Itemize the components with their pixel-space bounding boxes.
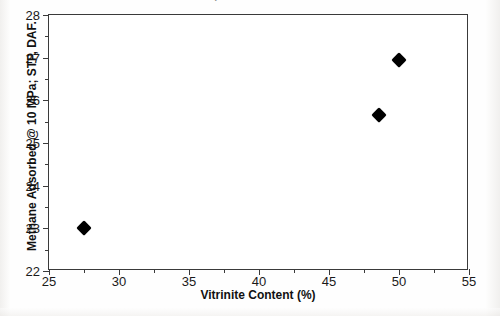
x-axis-minor-tick [224,269,225,273]
x-axis-tick-label: 45 [322,274,336,289]
y-axis-minor-tick [45,207,49,208]
x-axis-tick-label: 55 [462,274,476,289]
y-axis-minor-tick [45,36,49,37]
x-axis-tick-label: 25 [42,274,56,289]
y-axis-minor-tick [45,250,49,251]
y-axis-tick [43,100,49,101]
data-point-marker [391,52,407,68]
x-axis-minor-tick [434,269,435,273]
y-axis-tick [43,143,49,144]
x-axis-minor-tick [84,269,85,273]
x-axis-tick-label: 40 [252,274,266,289]
chart-figure: samples 2223242526272825303540455055 Vit… [0,0,500,316]
plot-area: 2223242526272825303540455055 [48,14,468,270]
scan-edge-left [0,0,10,316]
truncated-caption-text: samples [196,0,288,1]
x-axis-minor-tick [154,269,155,273]
x-axis-tick-label: 35 [182,274,196,289]
y-axis-tick [43,15,49,16]
truncated-caption-fragment: samples [196,0,288,3]
data-point-marker [76,221,92,237]
x-axis-minor-tick [294,269,295,273]
y-axis-minor-tick [45,122,49,123]
x-axis-tick-label: 30 [112,274,126,289]
y-axis-tick [43,228,49,229]
y-axis-tick [43,186,49,187]
scan-edge-right [486,0,500,316]
x-axis-tick-label: 50 [392,274,406,289]
x-axis-minor-tick [364,269,365,273]
y-axis-minor-tick [45,79,49,80]
y-axis-tick [43,58,49,59]
data-point-marker [372,107,388,123]
y-axis-minor-tick [45,164,49,165]
scan-edge-bottom [0,308,500,316]
x-axis-title: Vitrinite Content (%) [48,288,468,302]
y-axis-title: Methane Adsorbed @ 10 MPa; STP, DAF. [25,0,39,272]
